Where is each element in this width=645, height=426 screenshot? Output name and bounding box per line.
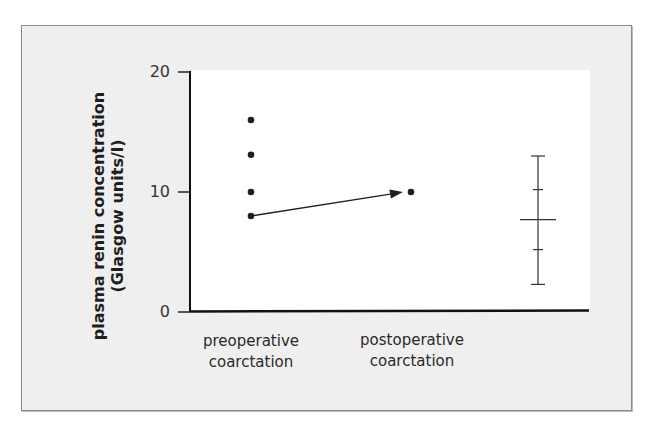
y-tick-label-20: 20 bbox=[130, 62, 170, 81]
data-point bbox=[408, 189, 415, 196]
x-axis bbox=[190, 311, 589, 312]
x-category-label-postoperative: postoperative coarctation bbox=[337, 330, 487, 372]
y-axis-label-line-2: (Glasgow units/l) bbox=[108, 92, 127, 340]
data-point bbox=[248, 117, 255, 124]
data-point bbox=[248, 189, 255, 196]
y-axis-label: plasma renin concentration (Glasgow unit… bbox=[89, 92, 127, 340]
y-axis-label-line-1: plasma renin concentration bbox=[89, 92, 108, 340]
y-tick-label-10: 10 bbox=[130, 182, 170, 201]
x-category-label-line: postoperative bbox=[337, 330, 487, 351]
x-category-label-line: coarctation bbox=[337, 351, 487, 372]
x-category-label-preoperative: preoperative coarctation bbox=[176, 331, 326, 373]
y-tick-label-0: 0 bbox=[130, 302, 170, 321]
data-point bbox=[248, 152, 255, 159]
x-category-label-line: preoperative bbox=[176, 331, 326, 352]
x-category-label-line: coarctation bbox=[176, 352, 326, 373]
